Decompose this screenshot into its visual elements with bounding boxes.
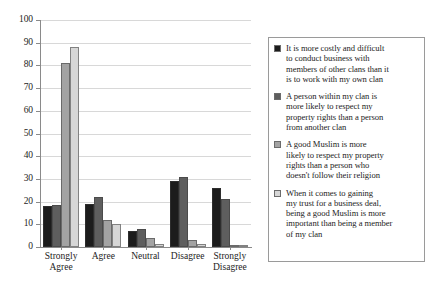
x-axis-category-line: Disagree <box>193 262 267 273</box>
legend-swatch-icon <box>274 93 281 100</box>
x-axis-tick <box>61 247 62 250</box>
x-axis-tick <box>146 247 147 250</box>
legend-label-line: important than being a member <box>286 218 392 228</box>
legend-label-line: my trust for a business deal, <box>286 198 392 208</box>
bar <box>85 204 94 247</box>
legend-label: When it comes to gainingmy trust for a b… <box>286 188 392 239</box>
bar <box>188 240 197 247</box>
legend-label-line: doesn't follow their religion <box>286 170 384 180</box>
legend-label: A good Muslim is morelikely to respect m… <box>286 139 384 180</box>
legend-label-line: of my clan <box>286 229 392 239</box>
bar <box>52 205 61 247</box>
legend-label-line: members of other clans than it <box>286 64 389 74</box>
legend-label-line: being a good Muslim is more <box>286 208 392 218</box>
legend-item[interactable]: A good Muslim is morelikely to respect m… <box>274 139 420 180</box>
legend-swatch-icon <box>274 45 281 52</box>
bar <box>112 224 121 247</box>
bar <box>170 181 179 247</box>
y-axis-tick-label: 40 <box>0 151 33 161</box>
bar-group <box>212 20 248 247</box>
legend-item[interactable]: A person within my clan ismore likely to… <box>274 91 420 132</box>
legend-label: A person within my clan ismore likely to… <box>286 91 383 132</box>
x-axis-category-label: StronglyDisagree <box>193 251 267 273</box>
bar <box>221 199 230 247</box>
legend-label-line: to conduct business with <box>286 53 389 63</box>
y-axis-tick-label: 50 <box>0 129 33 139</box>
bar-group <box>43 20 79 247</box>
bar <box>43 206 52 247</box>
legend-label-line: A good Muslim is more <box>286 139 384 149</box>
bar <box>137 229 146 247</box>
x-axis-category-line: Agree <box>24 262 98 273</box>
legend-label-line: from another clan <box>286 122 383 132</box>
legend-label-line: rights than a person who <box>286 160 384 170</box>
y-axis-tick-label: 70 <box>0 83 33 93</box>
y-axis-tick-label: 20 <box>0 197 33 207</box>
y-axis-tick-label: 30 <box>0 174 33 184</box>
y-axis-tick-label: 100 <box>0 15 33 25</box>
legend-label-line: A person within my clan is <box>286 91 383 101</box>
legend-swatch-icon <box>274 190 281 197</box>
legend-swatch-icon <box>274 141 281 148</box>
y-axis-tick-label: 60 <box>0 106 33 116</box>
bar-group <box>85 20 121 247</box>
legend-label-line: likely to respect my property <box>286 150 384 160</box>
y-axis-tick-label: 90 <box>0 38 33 48</box>
legend-label: It is more costly and difficultto conduc… <box>286 43 389 84</box>
y-axis-tick-label: 80 <box>0 60 33 70</box>
bar <box>179 177 188 247</box>
bar-group <box>128 20 164 247</box>
legend-item[interactable]: When it comes to gainingmy trust for a b… <box>274 188 420 239</box>
legend-label-line: It is more costly and difficult <box>286 43 389 53</box>
x-axis-tick <box>188 247 189 250</box>
chart-legend: It is more costly and difficultto conduc… <box>268 37 425 262</box>
x-axis-tick <box>230 247 231 250</box>
x-axis-category-line: Strongly <box>193 251 267 262</box>
legend-label-line: more likely to respect my <box>286 101 383 111</box>
bar <box>103 220 112 247</box>
bar <box>70 47 79 247</box>
x-axis-tick <box>103 247 104 250</box>
bar-chart-figure: 1009080706050403020100 StronglyAgreeAgre… <box>0 0 429 296</box>
plot-area <box>40 20 251 247</box>
bar <box>128 231 137 247</box>
bar <box>146 238 155 247</box>
y-axis-line <box>40 20 41 248</box>
bar-group <box>170 20 206 247</box>
legend-label-line: When it comes to gaining <box>286 188 392 198</box>
bar <box>212 188 221 247</box>
y-axis-tick-label: 10 <box>0 219 33 229</box>
legend-label-line: is to work with my own clan <box>286 74 389 84</box>
legend-item[interactable]: It is more costly and difficultto conduc… <box>274 43 420 84</box>
legend-label-line: property rights than a person <box>286 112 383 122</box>
bar <box>61 63 70 247</box>
bar <box>94 197 103 247</box>
